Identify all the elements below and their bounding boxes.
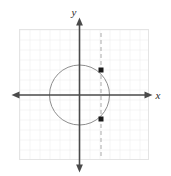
coordinate-plane-graph: y x: [0, 0, 171, 176]
math-figure: y x: [0, 0, 171, 176]
intersection-point-lower: [99, 117, 104, 122]
intersection-point-upper: [99, 68, 104, 73]
x-axis-label: x: [155, 89, 161, 101]
y-axis-label: y: [71, 6, 77, 18]
